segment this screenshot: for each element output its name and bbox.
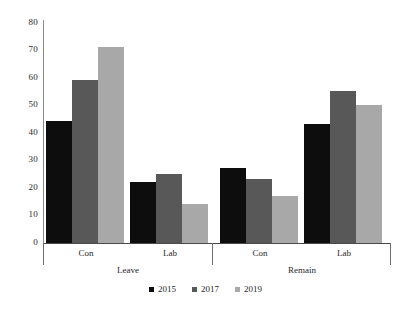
- y-tick-label: 70: [4, 45, 38, 54]
- bar-2015: [130, 182, 156, 243]
- legend-item-2015[interactable]: 2015: [149, 285, 176, 294]
- x-category-label-leave-lab: Lab: [128, 248, 212, 258]
- y-tick-label: 0: [4, 238, 38, 247]
- bar-2019: [356, 105, 382, 243]
- legend-swatch-icon: [149, 287, 154, 292]
- x-axis-line: [43, 243, 391, 244]
- legend-swatch-icon: [235, 287, 240, 292]
- x-group-label-remain: Remain: [218, 265, 386, 275]
- y-tick-label: 40: [4, 128, 38, 137]
- legend-label: 2019: [244, 285, 262, 294]
- bar-group-remain-lab: [302, 22, 386, 243]
- bar-2019: [272, 196, 298, 243]
- bar-group-remain-con: [218, 22, 302, 243]
- x-category-label-leave-con: Con: [44, 248, 128, 258]
- bar-chart: 80 70 60 50 40 30 20 10 0: [0, 0, 411, 310]
- y-tick-label: 30: [4, 155, 38, 164]
- plot-area: [44, 22, 390, 243]
- y-tick-label: 80: [4, 18, 38, 27]
- x-axis-tick-right: [390, 243, 391, 265]
- y-tick-label: 50: [4, 100, 38, 109]
- legend-swatch-icon: [192, 287, 197, 292]
- bar-2017: [72, 80, 98, 243]
- bar-2015: [46, 121, 72, 243]
- y-tick-label: 10: [4, 210, 38, 219]
- legend-label: 2015: [158, 285, 176, 294]
- bar-2017: [330, 91, 356, 243]
- bar-2015: [304, 124, 330, 243]
- bar-2017: [246, 179, 272, 243]
- bar-2019: [98, 47, 124, 243]
- bar-group-leave-con: [44, 22, 128, 243]
- bar-2017: [156, 174, 182, 243]
- x-category-label-remain-con: Con: [218, 248, 302, 258]
- x-group-label-leave: Leave: [44, 265, 212, 275]
- x-axis-group-separator: [212, 243, 213, 265]
- legend-item-2019[interactable]: 2019: [235, 285, 262, 294]
- bar-2015: [220, 168, 246, 243]
- bar-group-leave-lab: [128, 22, 212, 243]
- legend-item-2017[interactable]: 2017: [192, 285, 219, 294]
- chart-legend: 2015 2017 2019: [0, 285, 411, 294]
- legend-label: 2017: [201, 285, 219, 294]
- y-tick-label: 60: [4, 73, 38, 82]
- bar-2019: [182, 204, 208, 243]
- x-category-label-remain-lab: Lab: [302, 248, 386, 258]
- y-tick-label: 20: [4, 183, 38, 192]
